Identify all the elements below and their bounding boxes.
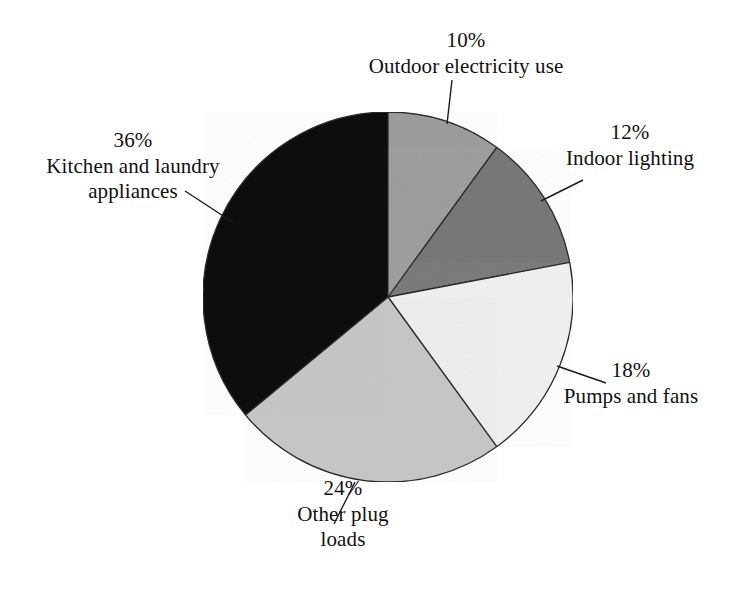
pie-label-text-line2: loads — [258, 527, 428, 553]
leader-line-outdoor — [447, 80, 452, 124]
pie-label-pumps-and-fans: 18% Pumps and fans — [536, 358, 726, 409]
pie-label-percent: 12% — [530, 120, 730, 146]
pie-label-percent: 18% — [536, 358, 726, 384]
pie-label-text: Indoor lighting — [530, 146, 730, 172]
pie-label-percent: 24% — [258, 476, 428, 502]
pie-label-percent: 36% — [18, 128, 248, 154]
pie-label-percent: 10% — [346, 28, 586, 54]
pie-label-text-line1: Other plug — [258, 502, 428, 528]
pie-label-kitchen-and-laundry-appliances: 36% Kitchen and laundry appliances — [18, 128, 248, 205]
pie-slices-group — [203, 112, 573, 482]
pie-chart-figure: 10% Outdoor electricity use 12% Indoor l… — [0, 0, 732, 614]
pie-label-text: Outdoor electricity use — [346, 54, 586, 80]
pie-label-other-plug-loads: 24% Other plug loads — [258, 476, 428, 553]
pie-label-text-line1: Kitchen and laundry — [18, 154, 248, 180]
pie-label-outdoor-electricity-use: 10% Outdoor electricity use — [346, 28, 586, 79]
pie-label-text-line2: appliances — [18, 179, 248, 205]
leader-line-indoor — [541, 180, 583, 201]
pie-label-indoor-lighting: 12% Indoor lighting — [530, 120, 730, 171]
pie-label-text: Pumps and fans — [536, 384, 726, 410]
